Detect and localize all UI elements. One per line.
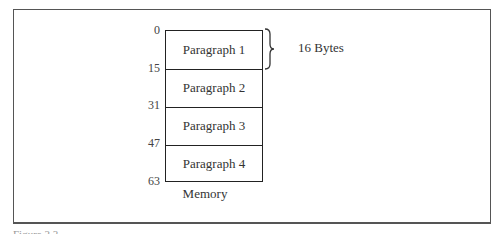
paragraph-4: Paragraph 4 — [166, 145, 262, 183]
address-label-31: 31 — [140, 98, 160, 113]
paragraph-2: Paragraph 2 — [166, 69, 262, 108]
curly-brace-icon — [263, 28, 275, 70]
address-label-15: 15 — [140, 61, 160, 76]
address-label-47: 47 — [140, 136, 160, 151]
memory-block: Paragraph 1 Paragraph 2 Paragraph 3 Para… — [165, 30, 263, 182]
paragraph-1: Paragraph 1 — [166, 31, 262, 70]
size-annotation: 16 Bytes — [298, 40, 344, 56]
address-label-63: 63 — [140, 174, 160, 189]
paragraph-3: Paragraph 3 — [166, 107, 262, 146]
address-label-0: 0 — [140, 23, 160, 38]
memory-label: Memory — [165, 186, 245, 202]
figure-caption: Figure 2.3 — [13, 228, 58, 234]
